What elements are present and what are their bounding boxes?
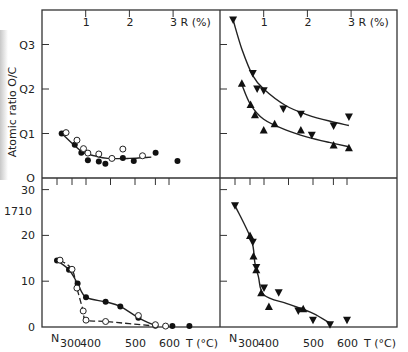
bottom-left-y-tick-label: 10 bbox=[21, 275, 35, 288]
top-left-data-point bbox=[96, 151, 102, 157]
top-left-data-point bbox=[131, 158, 137, 164]
bottom-left-y-tick-label: 20 bbox=[21, 229, 35, 242]
data-markers bbox=[54, 17, 353, 330]
top-right-data-point bbox=[260, 126, 268, 134]
bottom-left-data-point bbox=[69, 266, 75, 272]
top-left-data-point bbox=[63, 130, 69, 136]
bottom-left-data-point bbox=[83, 317, 89, 323]
bottom-right-data-point bbox=[250, 252, 258, 260]
bottom-left-data-point bbox=[117, 303, 123, 309]
bottom-left-data-point bbox=[83, 294, 89, 300]
bottom-left-t-tick-label: T (°C) bbox=[185, 337, 218, 350]
bottom-right-t-tick-label: 600 bbox=[337, 337, 358, 350]
bottom-right-data-point bbox=[246, 231, 254, 239]
top-left-r-tick-label: 2 bbox=[126, 16, 133, 29]
top-left-data-point bbox=[153, 150, 159, 156]
axis-labels: 123 R (%)123 R (%)OQ1Q2Q3Atomic ratio O/… bbox=[4, 16, 396, 350]
bottom-left-y-tick-label: 30 bbox=[21, 184, 35, 197]
bottom-right-data-point bbox=[343, 317, 351, 325]
bottom-left-t-tick-label: 400 bbox=[80, 337, 101, 350]
axis-ticks bbox=[42, 10, 351, 281]
bottom-left-data-point bbox=[80, 308, 86, 314]
bottom-right-t-tick-label: 400 bbox=[258, 337, 279, 350]
top-left-data-point bbox=[120, 146, 126, 152]
bottom-left-data-point bbox=[135, 313, 141, 319]
bottom-left-y-tick-label: 0 bbox=[28, 321, 35, 334]
top-right-data-point bbox=[297, 126, 305, 134]
bottom-left-data-point bbox=[152, 322, 158, 328]
top-left-r-tick-label: 3 R (%) bbox=[170, 16, 211, 29]
bottom-left-data-point bbox=[103, 299, 109, 305]
fit-curves bbox=[57, 20, 349, 326]
bottom-right-data-point bbox=[252, 266, 260, 274]
top-left-data-point bbox=[74, 137, 80, 143]
top-left-data-point bbox=[120, 155, 126, 161]
bottom-y-axis-title: 1710 bbox=[4, 205, 32, 218]
top-right-data-point bbox=[279, 106, 287, 114]
top-left-y-tick-label: Q1 bbox=[19, 128, 35, 141]
top-right-r-tick-label: 2 bbox=[304, 16, 311, 29]
bottom-right-data-point bbox=[275, 289, 283, 297]
top-left-data-point bbox=[96, 159, 102, 165]
top-left-data-point bbox=[85, 157, 91, 163]
bottom-right-t-tick-label: 500 bbox=[303, 337, 324, 350]
top-y-axis-title: Atomic ratio O/C bbox=[6, 66, 19, 157]
bottom-left-t-tick-label: 500 bbox=[125, 337, 146, 350]
bottom-left-t-tick-label: 300 bbox=[60, 337, 81, 350]
bottom-right-t-tick-label: N bbox=[229, 332, 237, 345]
bottom-right-t-tick-label: 300 bbox=[238, 337, 259, 350]
top-left-data-point bbox=[174, 158, 180, 164]
top-right-data-point bbox=[247, 101, 255, 109]
top-left-y-tick-label: Q2 bbox=[19, 83, 35, 96]
top-left-data-point bbox=[102, 161, 108, 167]
top-right-data-point bbox=[345, 114, 353, 122]
bottom-right-data-point bbox=[231, 202, 239, 210]
bottom-left-data-point bbox=[186, 323, 192, 329]
top-left-y-tick-label: Q3 bbox=[19, 39, 35, 52]
top-right-data-point bbox=[345, 144, 353, 152]
top-right-data-point bbox=[238, 79, 246, 87]
top-right-data-point bbox=[330, 122, 338, 130]
top-left-data-point bbox=[109, 155, 115, 161]
top-right-data-point bbox=[297, 111, 305, 119]
bottom-right-data-point bbox=[309, 317, 317, 325]
top-left-data-point bbox=[85, 150, 91, 156]
top-right-r-tick-label: 3 R (%) bbox=[348, 16, 389, 29]
bottom-right-fit-curve bbox=[235, 206, 330, 324]
top-left-data-point bbox=[140, 153, 146, 159]
top-right-data-point bbox=[229, 17, 237, 25]
top-right-fit-curve bbox=[242, 85, 349, 147]
top-right-data-point bbox=[249, 70, 257, 78]
bottom-left-data-point bbox=[74, 285, 80, 291]
bottom-left-data-point bbox=[57, 257, 63, 263]
top-right-data-point bbox=[253, 86, 261, 94]
bottom-left-data-point bbox=[163, 323, 169, 329]
bottom-left-t-tick-label: 600 bbox=[159, 337, 180, 350]
bottom-right-data-point bbox=[249, 239, 257, 247]
top-right-r-tick-label: 1 bbox=[261, 16, 268, 29]
bottom-right-data-point bbox=[265, 302, 273, 310]
top-left-r-tick-label: 1 bbox=[83, 16, 90, 29]
figure: 123 R (%)123 R (%)OQ1Q2Q3Atomic ratio O/… bbox=[0, 0, 408, 352]
bottom-left-data-point bbox=[169, 323, 175, 329]
bottom-right-t-tick-label: T (°C) bbox=[363, 337, 396, 350]
bottom-left-t-tick-label: N bbox=[51, 332, 59, 345]
panel-frames bbox=[42, 10, 397, 327]
bottom-left-data-point bbox=[103, 319, 109, 325]
